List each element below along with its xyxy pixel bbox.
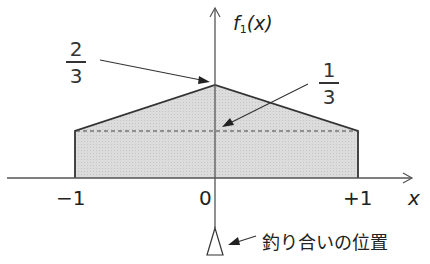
y-axis-label: f1(x) <box>233 12 273 36</box>
arrowhead-icon <box>228 237 240 245</box>
denominator: 3 <box>323 86 336 108</box>
numerator: 1 <box>323 59 336 81</box>
arrowhead-icon <box>198 76 210 84</box>
equilibrium-label: 釣り合いの位置 <box>262 228 388 254</box>
fulcrum-triangle-icon <box>207 228 223 255</box>
x-axis-label: x <box>408 186 420 210</box>
denominator: 3 <box>70 65 83 87</box>
label-two-thirds: 2 3 <box>66 38 86 87</box>
tick-label-zero: 0 <box>199 186 212 210</box>
tick-label-plus-one: +1 <box>343 186 372 210</box>
y-label-subscript: 1 <box>240 23 247 36</box>
tick-label-minus-one: −1 <box>56 186 85 210</box>
label-one-third: 1 3 <box>319 59 339 108</box>
fraction-bar <box>319 82 339 84</box>
fraction-bar <box>66 61 86 63</box>
numerator: 2 <box>70 38 83 60</box>
distribution-diagram <box>0 0 430 264</box>
y-label-f: f <box>233 12 240 34</box>
y-label-arg: (x) <box>247 12 273 34</box>
arrow-two-thirds <box>100 60 206 81</box>
